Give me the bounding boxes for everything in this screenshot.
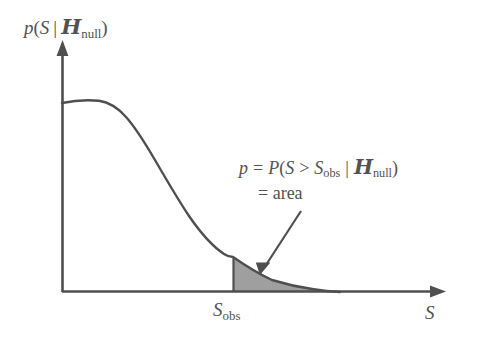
annotation-line-2: = area: [239, 182, 398, 206]
annot-greater-than: >: [294, 158, 314, 178]
y-label-S: S: [40, 17, 50, 38]
figure-container: p(S|Hnull) S Sobs p=P(S>Sobs|Hnull) = ar…: [0, 0, 477, 342]
x-axis-arrowhead: [430, 286, 446, 298]
annotation-text: p=P(S>Sobs|Hnull) = area: [239, 154, 398, 205]
annot-null-subscript: null: [373, 166, 392, 180]
y-label-close-paren: ): [101, 17, 107, 38]
sobs-S: S: [213, 299, 223, 320]
annot-S: S: [285, 158, 294, 178]
y-label-H: H: [61, 14, 81, 39]
y-label-given-bar: |: [49, 17, 61, 38]
annot-Sobs-S: S: [314, 158, 323, 178]
y-axis-label: p(S|Hnull): [24, 14, 108, 42]
x-axis-label: S: [425, 302, 435, 324]
annot-close-paren: ): [392, 158, 398, 178]
annot-given-bar: |: [340, 158, 354, 178]
sobs-subscript: obs: [223, 308, 241, 323]
tail-area-shading: [233, 257, 340, 292]
annot-H: H: [354, 155, 373, 179]
x-tick-label-sobs: Sobs: [213, 299, 240, 324]
annot-equals: =: [248, 158, 268, 178]
annot-p: p: [239, 158, 248, 178]
y-axis-arrowhead: [57, 40, 69, 56]
annotation-line-1: p=P(S>Sobs|Hnull): [239, 158, 398, 178]
y-label-p: p: [24, 17, 34, 38]
y-label-null-subscript: null: [81, 26, 101, 41]
annot-P: P: [268, 158, 279, 178]
annotation-pointer-line: [264, 211, 301, 268]
annot-Sobs-subscript: obs: [323, 166, 340, 180]
